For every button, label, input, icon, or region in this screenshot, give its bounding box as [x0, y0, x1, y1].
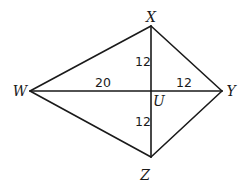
vertex-label-u: U [153, 93, 166, 109]
measure-wu: 20 [95, 75, 111, 90]
segment-zw [30, 91, 151, 157]
vertex-label-y: Y [226, 83, 237, 99]
measure-uz: 12 [135, 114, 151, 129]
kite-diagram: X W Y Z U 12 20 12 12 [0, 0, 247, 188]
vertex-label-w: W [13, 83, 29, 99]
vertex-label-x: X [145, 9, 157, 25]
measure-xu: 12 [135, 54, 151, 69]
vertex-label-z: Z [139, 167, 150, 183]
measure-uy: 12 [176, 75, 192, 90]
segment-wx [30, 26, 151, 91]
